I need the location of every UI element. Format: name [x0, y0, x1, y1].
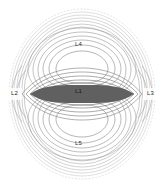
lagrange-point-label-l5: L5 — [75, 140, 82, 147]
lagrange-point-label-l1: L1 — [75, 88, 82, 95]
contour-plot-canvas — [0, 0, 165, 189]
lagrange-point-label-l4: L4 — [75, 41, 82, 48]
lagrange-point-label-l2: L2 — [11, 90, 18, 97]
lagrange-point-label-l3: L3 — [147, 90, 154, 97]
contour-figure: L1 L2 L3 L4 L5 — [0, 0, 165, 189]
